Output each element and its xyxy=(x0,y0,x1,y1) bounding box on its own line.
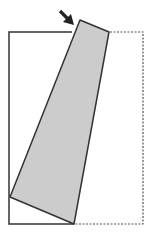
diagram-svg xyxy=(0,0,151,236)
arrow-down-right-icon xyxy=(60,11,74,25)
rotated-panel xyxy=(10,20,109,224)
diagram-canvas: Rectangle (page) with a rotated grey qua… xyxy=(0,0,151,236)
